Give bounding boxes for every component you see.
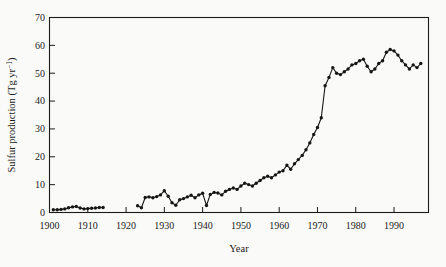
data-point	[308, 141, 311, 144]
data-point	[155, 195, 158, 198]
data-point	[144, 196, 147, 199]
data-point	[170, 201, 173, 204]
data-point	[274, 173, 277, 176]
data-point	[78, 206, 81, 209]
data-point	[182, 197, 185, 200]
data-point	[316, 126, 319, 129]
data-point	[101, 206, 104, 209]
data-point	[82, 207, 85, 210]
data-point	[63, 207, 66, 210]
data-point	[163, 189, 166, 192]
data-point	[71, 205, 74, 208]
data-series-line	[138, 50, 421, 208]
data-point	[278, 170, 281, 173]
data-point	[412, 63, 415, 66]
sulfur-production-figure: 1900191019201930194019501960197019801990…	[0, 0, 446, 267]
data-point	[366, 65, 369, 68]
x-axis-tick-label: 1950	[231, 220, 251, 231]
data-point	[159, 193, 162, 196]
data-point	[90, 207, 93, 210]
data-point	[140, 206, 143, 209]
data-point	[400, 59, 403, 62]
y-axis-tick-label: 50	[35, 68, 45, 79]
data-point	[251, 184, 254, 187]
data-point	[247, 183, 250, 186]
data-point	[262, 176, 265, 179]
data-point	[235, 188, 238, 191]
y-axis-tick-label: 0	[40, 207, 45, 218]
x-axis-tick-label: 1910	[78, 220, 98, 231]
data-point	[243, 182, 246, 185]
data-point	[323, 84, 326, 87]
data-point	[270, 176, 273, 179]
y-axis-tick-label: 70	[35, 12, 45, 23]
data-point	[396, 53, 399, 56]
y-axis-tick-label: 10	[35, 179, 45, 190]
x-axis-tick-label: 1940	[193, 220, 213, 231]
data-point	[239, 184, 242, 187]
data-point	[289, 168, 292, 171]
data-point	[377, 62, 380, 65]
x-axis-tick-label: 1930	[154, 220, 174, 231]
data-point	[59, 208, 62, 211]
data-point	[255, 182, 258, 185]
data-point	[301, 154, 304, 157]
data-point	[212, 191, 215, 194]
data-point	[98, 206, 101, 209]
data-point	[258, 179, 261, 182]
data-point	[327, 76, 330, 79]
y-axis-tick-label: 30	[35, 123, 45, 134]
data-point	[147, 195, 150, 198]
data-point	[228, 188, 231, 191]
data-point	[350, 63, 353, 66]
data-point	[419, 62, 422, 65]
data-point	[186, 195, 189, 198]
data-point	[354, 62, 357, 65]
data-point	[304, 148, 307, 151]
data-point	[167, 195, 170, 198]
y-axis-tick-label: 60	[35, 40, 45, 51]
y-axis-label: Sulfur production (Tg yr−1)	[5, 57, 19, 173]
x-axis-tick-label: 1990	[384, 220, 404, 231]
data-point	[224, 190, 227, 193]
data-point	[320, 116, 323, 119]
data-point	[136, 204, 139, 207]
x-axis-label: Year	[229, 243, 249, 254]
data-point	[369, 70, 372, 73]
data-point	[335, 72, 338, 75]
data-point	[415, 66, 418, 69]
y-axis-tick-label: 40	[35, 95, 45, 106]
data-point	[385, 51, 388, 54]
data-point	[205, 204, 208, 207]
data-point	[178, 198, 181, 201]
data-point	[343, 70, 346, 73]
y-axis: 010203040506070	[35, 12, 55, 218]
data-point	[232, 186, 235, 189]
data-point	[220, 193, 223, 196]
x-axis-tick-label: 1980	[346, 220, 366, 231]
data-point	[189, 194, 192, 197]
data-point	[86, 207, 89, 210]
data-point	[331, 66, 334, 69]
data-point	[392, 49, 395, 52]
data-point	[193, 196, 196, 199]
data-point	[373, 67, 376, 70]
data-point	[201, 192, 204, 195]
data-point	[404, 63, 407, 66]
data-point	[339, 73, 342, 76]
data-point	[285, 163, 288, 166]
data-point	[312, 133, 315, 136]
data-point	[209, 193, 212, 196]
data-point	[408, 67, 411, 70]
data-point	[297, 158, 300, 161]
x-axis-tick-label: 1920	[116, 220, 136, 231]
data-point	[281, 169, 284, 172]
plot-frame	[50, 18, 429, 213]
data-point	[174, 204, 177, 207]
data-point	[94, 206, 97, 209]
y-axis-tick-label: 20	[35, 151, 45, 162]
data-point	[75, 205, 78, 208]
data-point	[197, 193, 200, 196]
data-point	[52, 208, 55, 211]
data-point	[56, 208, 59, 211]
